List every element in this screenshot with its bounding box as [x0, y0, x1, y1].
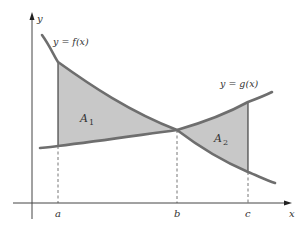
x-tick-label-c: c	[245, 208, 251, 219]
x-tick-label-b: b	[174, 208, 180, 219]
curve-g-label: y = g(x)	[219, 78, 259, 89]
region-a2-subscript: 2	[223, 138, 228, 147]
region-a2-label: A	[213, 132, 222, 145]
area-between-curves-diagram: y x y = f(x) y = g(x) A 1 A 2 a b c	[0, 0, 306, 230]
y-axis-label: y	[36, 13, 43, 24]
curve-f-label: y = f(x)	[52, 36, 89, 47]
x-tick-label-a: a	[55, 208, 61, 219]
region-a1-label: A	[79, 112, 88, 125]
region-a1-subscript: 1	[89, 118, 94, 127]
x-axis-label: x	[289, 208, 295, 219]
y-axis-arrow-icon	[30, 12, 35, 20]
x-axis-arrow-icon	[284, 201, 292, 206]
